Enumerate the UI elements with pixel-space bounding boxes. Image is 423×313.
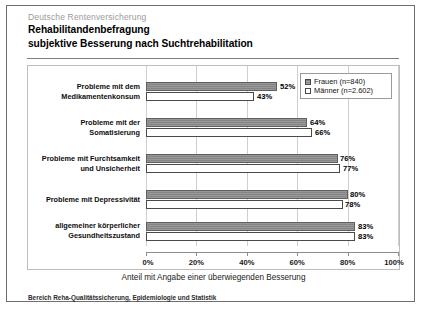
bar-frauen-medikamentenkonsum — [146, 82, 277, 91]
bar-maenner-gesundheitszustand — [146, 232, 355, 241]
bar-maenner-somatisierung — [146, 128, 312, 137]
legend-label-maenner: Männer (n=2.602) — [314, 86, 373, 95]
bar-frauen-somatisierung — [146, 118, 307, 127]
x-tick-60 — [297, 252, 298, 256]
bar-value-frauen-depressivitaet: 80% — [350, 190, 365, 199]
bar-frauen-gesundheitszustand — [146, 222, 355, 231]
bar-value-maenner-depressivitaet: 78% — [345, 200, 360, 209]
legend-swatch-frauen-icon — [305, 79, 311, 85]
x-tick-40 — [247, 252, 248, 256]
page-title: Rehabilitandenbefragung — [28, 23, 398, 37]
category-line-1: Probleme mit Furchtsamkeit — [0, 154, 140, 164]
legend-item-maenner: Männer (n=2.602) — [305, 86, 387, 95]
category-line-1: allgemeiner körperlicher — [0, 221, 140, 231]
x-tick-80 — [348, 252, 349, 256]
legend-swatch-maenner-icon — [305, 88, 311, 94]
category-line-1: Probleme mit dem — [0, 82, 140, 92]
bar-value-maenner-furchtsamkeit: 77% — [343, 164, 358, 173]
x-axis-title: Anteil mit Angabe einer überwiegenden Be… — [27, 273, 400, 282]
bar-maenner-medikamentenkonsum — [146, 92, 254, 101]
x-tick-20 — [196, 252, 197, 256]
bar-frauen-depressivitaet — [146, 190, 348, 199]
chart-legend: Frauen (n=840) Männer (n=2.602) — [300, 73, 392, 99]
category-label-gesundheitszustand: allgemeiner körperlicher Gesundheitszust… — [0, 221, 140, 240]
bar-value-frauen-somatisierung: 64% — [310, 118, 325, 127]
legend-item-frauen: Frauen (n=840) — [305, 77, 387, 86]
category-line-1: Probleme mit Depressivität — [0, 195, 140, 205]
page-subtitle: subjektive Besserung nach Suchtrehabilit… — [28, 37, 398, 51]
category-label-depressivitaet: Probleme mit Depressivität — [0, 195, 140, 205]
footer-note: Bereich Reha-Qualitätssicherung, Epidemi… — [28, 294, 216, 301]
x-tick-label-20: 20% — [189, 258, 204, 267]
bar-value-frauen-medikamentenkonsum: 52% — [280, 82, 295, 91]
slide-header: Deutsche Rentenversicherung Rehabilitand… — [28, 12, 398, 50]
bar-maenner-furchtsamkeit — [146, 164, 340, 173]
bar-value-frauen-furchtsamkeit: 76% — [340, 154, 355, 163]
x-tick-label-0: 0% — [143, 258, 154, 267]
bar-value-frauen-gesundheitszustand: 83% — [358, 222, 373, 231]
x-tick-label-80: 80% — [340, 258, 355, 267]
category-line-1: Probleme mit der — [0, 118, 140, 128]
bar-value-maenner-gesundheitszustand: 83% — [358, 232, 373, 241]
category-line-2: und Unsicherheit — [0, 164, 140, 174]
gridline-100 — [398, 66, 399, 246]
x-tick-label-60: 60% — [290, 258, 305, 267]
category-label-medikamentenkonsum: Probleme mit dem Medikamentenkonsum — [0, 82, 140, 101]
x-tick-0 — [146, 252, 147, 256]
category-label-furchtsamkeit: Probleme mit Furchtsamkeit und Unsicherh… — [0, 154, 140, 173]
bar-frauen-furchtsamkeit — [146, 154, 338, 163]
bar-value-maenner-medikamentenkonsum: 43% — [257, 92, 272, 101]
category-line-2: Gesundheitszustand — [0, 231, 140, 241]
x-axis-line — [146, 252, 398, 253]
legend-label-frauen: Frauen (n=840) — [314, 77, 365, 86]
category-line-2: Medikamentenkonsum — [0, 92, 140, 102]
chart-frame: Probleme mit dem Medikamentenkonsum 52% … — [27, 65, 400, 270]
x-tick-label-40: 40% — [239, 258, 254, 267]
slide-canvas: Deutsche Rentenversicherung Rehabilitand… — [6, 5, 415, 302]
title-divider — [27, 58, 399, 59]
bar-value-maenner-somatisierung: 66% — [315, 128, 330, 137]
bar-maenner-depressivitaet — [146, 200, 343, 209]
x-tick-100 — [398, 252, 399, 256]
organization-label: Deutsche Rentenversicherung — [28, 12, 398, 23]
category-line-2: Somatisierung — [0, 128, 140, 138]
category-label-somatisierung: Probleme mit der Somatisierung — [0, 118, 140, 137]
x-tick-label-100: 100% — [384, 258, 403, 267]
